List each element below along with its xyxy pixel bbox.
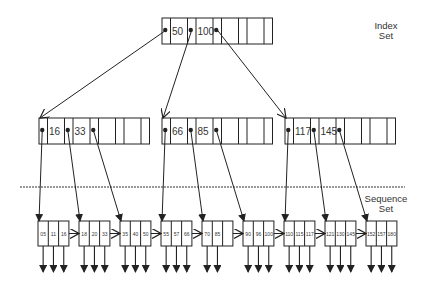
leaf-key: 33 xyxy=(102,231,108,237)
leaf-key: 117 xyxy=(306,231,314,237)
index-key: 100 xyxy=(198,26,215,37)
leaf-key: 157 xyxy=(377,231,386,237)
sequence-leaf-3: 555766 xyxy=(161,221,192,272)
child-pointer-arrow xyxy=(40,30,166,118)
leaf-key: 40 xyxy=(133,231,139,237)
leaf-key: 66 xyxy=(184,231,190,237)
leaf-key: 70 xyxy=(204,231,210,237)
index-key: 145 xyxy=(321,126,338,137)
bplus-tree-diagram: Index Set Sequence Set 50100163366851171… xyxy=(0,0,426,287)
sequence-leaf-2: 354050 xyxy=(120,221,151,272)
index-key: 33 xyxy=(75,126,87,137)
index-key: 85 xyxy=(198,126,210,137)
labels: Index Set Sequence Set xyxy=(365,20,408,214)
index-level2-node-2: 117145 xyxy=(285,118,396,144)
index-key: 16 xyxy=(49,126,61,137)
sequence-leaf-5: 9096100 xyxy=(243,221,274,272)
leaf-key: 55 xyxy=(163,231,169,237)
index-level2-node-0: 1633 xyxy=(39,118,150,144)
leaf-key: 145 xyxy=(347,231,356,237)
index-key: 50 xyxy=(172,26,184,37)
index-level2-node-1: 6685 xyxy=(162,118,273,144)
index-key: 117 xyxy=(295,126,311,137)
sequence-leaf-8: 152157180 xyxy=(366,221,397,272)
leaf-key: 18 xyxy=(81,231,87,237)
leaf-key: 152 xyxy=(367,231,376,237)
leaf-key: 20 xyxy=(92,231,98,237)
leaf-key: 11 xyxy=(51,231,56,237)
leaf-key: 85 xyxy=(215,231,221,237)
leaf-key: 100 xyxy=(265,231,274,237)
sequence-leaf-6: 110115117 xyxy=(284,221,315,272)
sequence-leaf-0: 051116 xyxy=(38,221,69,272)
leaf-key: 16 xyxy=(61,231,67,237)
index-set-label-line2: Set xyxy=(379,30,394,41)
leaf-key: 90 xyxy=(245,231,251,237)
leaf-key: 110 xyxy=(285,231,293,237)
leaf-key: 50 xyxy=(143,231,149,237)
leaf-key: 130 xyxy=(336,231,345,237)
leaf-key: 57 xyxy=(174,231,180,237)
leaf-key: 35 xyxy=(122,231,128,237)
sequence-leaf-4: 7085 xyxy=(202,221,233,272)
index-root-node: 50100 xyxy=(162,18,273,44)
sequence-leaf-7: 121130145 xyxy=(325,221,356,272)
leaf-key: 96 xyxy=(256,231,262,237)
sequence-leaf-1: 182033 xyxy=(79,221,110,272)
sequence-set-label-line2: Set xyxy=(379,203,394,214)
leaf-key: 115 xyxy=(295,231,303,237)
index-key: 66 xyxy=(172,126,184,137)
tree-nodes: 5010016336685117145051116182033354050555… xyxy=(38,18,397,272)
leaf-key: 05 xyxy=(40,231,46,237)
leaf-key: 121 xyxy=(326,231,335,237)
leaf-key: 180 xyxy=(388,231,397,237)
